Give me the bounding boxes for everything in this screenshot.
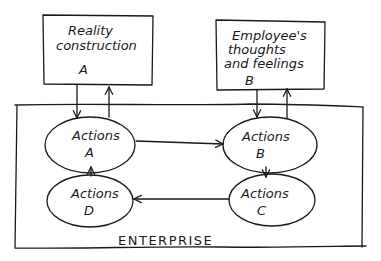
node-actions-c: Actions C (229, 174, 315, 226)
actions-a-label: Actions (71, 128, 120, 143)
enterprise-container: ENTERPRISE (15, 104, 366, 248)
actions-c-letter: C (257, 203, 267, 218)
actions-d-label: Actions (70, 186, 119, 201)
box-a-line-2: construction (56, 38, 137, 53)
box-a-line-1: Reality (68, 23, 113, 38)
node-actions-d: Actions D (47, 175, 133, 227)
actions-b-letter: B (256, 146, 265, 161)
box-b-line-3: and feelings (224, 56, 304, 71)
box-employee-thoughts: Employee's thoughts and feelings B (216, 20, 325, 90)
node-actions-b: Actions B (223, 117, 317, 173)
actions-a-letter: A (84, 145, 94, 160)
box-a-letter: A (78, 62, 88, 77)
box-b-line-2: thoughts (228, 42, 286, 57)
node-actions-a: Actions A (45, 117, 135, 173)
actions-c-label: Actions (240, 186, 289, 201)
diagram-canvas: Reality construction A Employee's though… (0, 0, 381, 261)
actions-d-letter: D (84, 203, 94, 218)
box-b-letter: B (245, 73, 254, 88)
enterprise-label: ENTERPRISE (118, 233, 213, 248)
box-b-line-1: Employee's (232, 28, 307, 43)
edge-actions-a-to-actions-b (136, 141, 223, 144)
actions-b-label: Actions (241, 129, 290, 144)
box-reality-construction: Reality construction A (43, 15, 153, 85)
